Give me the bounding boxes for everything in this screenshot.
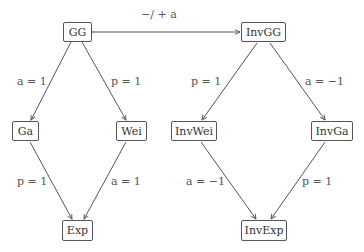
- label-gg-wei: p = 1: [111, 75, 141, 88]
- node-invga: InvGa: [311, 121, 353, 141]
- label-invgg-invga: a = −1: [305, 75, 344, 88]
- label-invga-invexp: p = 1: [302, 175, 332, 188]
- node-invgg: InvGG: [241, 22, 286, 42]
- node-exp: Exp: [62, 220, 93, 241]
- node-invgg-label: InvGG: [246, 26, 281, 39]
- node-wei-label: Wei: [121, 125, 141, 138]
- node-gg: GG: [63, 22, 92, 42]
- label-wei-exp: a = 1: [111, 175, 141, 188]
- label-gg-invgg: −/ + a: [141, 8, 177, 21]
- node-ga-label: Ga: [18, 125, 33, 138]
- node-invga-label: InvGa: [316, 125, 349, 138]
- node-ga: Ga: [12, 121, 39, 141]
- node-invwei-label: InvWei: [175, 125, 213, 138]
- label-invwei-invexp: a = −1: [186, 175, 225, 188]
- node-exp-label: Exp: [67, 224, 88, 237]
- node-invexp-label: InvExp: [245, 224, 284, 237]
- label-invgg-invwei: p = 1: [191, 75, 221, 88]
- node-invwei: InvWei: [171, 121, 217, 141]
- label-gg-ga: a = 1: [17, 75, 47, 88]
- node-invexp: InvExp: [241, 220, 287, 241]
- label-ga-exp: p = 1: [17, 175, 47, 188]
- node-gg-label: GG: [69, 26, 87, 39]
- node-wei: Wei: [116, 121, 147, 141]
